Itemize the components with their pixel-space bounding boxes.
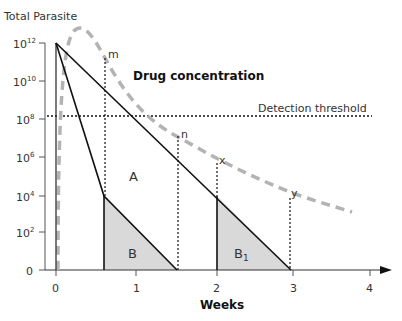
drug-concentration-label: Drug concentration bbox=[133, 69, 264, 83]
svg-text:106: 106 bbox=[16, 151, 35, 165]
svg-text:1012: 1012 bbox=[13, 37, 36, 51]
svg-text:102: 102 bbox=[16, 226, 34, 240]
y-axis-title: Total Parasite bbox=[3, 10, 77, 23]
svg-text:0: 0 bbox=[26, 265, 33, 278]
svg-text:4: 4 bbox=[366, 282, 373, 295]
x-tick-labels: 0 1 2 3 4 bbox=[52, 282, 373, 295]
x-axis-title: Weeks bbox=[200, 298, 244, 312]
point-n-label: n bbox=[181, 128, 188, 141]
y-ticks bbox=[39, 43, 45, 270]
svg-text:3: 3 bbox=[290, 282, 297, 295]
y-tick-labels: 1012 1010 108 106 104 102 0 bbox=[13, 37, 36, 278]
svg-text:1010: 1010 bbox=[13, 75, 36, 89]
point-x-label: x bbox=[219, 154, 226, 167]
parasite-drug-diagram: Total Parasite 1012 1010 108 106 104 102… bbox=[0, 0, 402, 321]
drug-concentration-curve bbox=[58, 28, 352, 270]
x-axis-arrow-icon bbox=[380, 266, 392, 274]
detection-threshold-label: Detection threshold bbox=[258, 102, 367, 115]
svg-text:2: 2 bbox=[213, 282, 220, 295]
svg-text:108: 108 bbox=[16, 113, 34, 127]
point-y-label: y bbox=[291, 187, 298, 200]
svg-text:1: 1 bbox=[133, 282, 140, 295]
svg-text:104: 104 bbox=[16, 190, 35, 204]
region-b-label: B bbox=[128, 246, 137, 261]
x-ticks bbox=[56, 270, 370, 276]
region-a-label: A bbox=[129, 169, 138, 184]
svg-text:0: 0 bbox=[52, 282, 59, 295]
point-m-label: m bbox=[108, 48, 119, 61]
